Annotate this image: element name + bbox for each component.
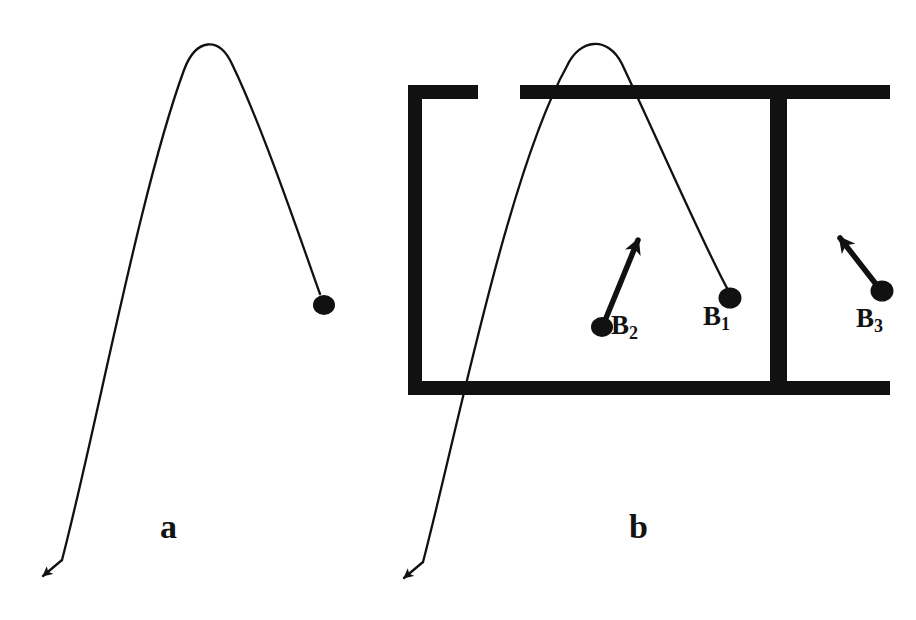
ball-B3 [871,281,894,302]
ball-B2 [591,317,613,337]
ball-label-B1-subscript: 1 [721,314,730,334]
apparatus-left-wall [408,85,422,395]
ball-B3-velocity-arrow [840,238,879,288]
panel-b-trajectory-group [404,44,727,578]
ball-label-B1: B1 [703,303,730,330]
ball-label-B1-base: B [703,301,721,331]
panel-a-descent-arrow [43,560,62,576]
figure-canvas: a b B2 B1 B3 [0,0,916,620]
panel-b-apparatus [408,85,890,395]
ball-label-B2-base: B [611,310,629,340]
ball-label-B3-base: B [856,303,874,333]
panel-label-b: b [629,510,648,544]
ball-label-B2: B2 [611,312,638,339]
ball-label-B2-subscript: 2 [629,323,638,343]
ball-label-B3-subscript: 3 [874,316,883,336]
figure-vector-graphics [0,0,916,620]
apparatus-partition-wall [770,85,787,395]
panel-a-trajectory-arc [62,44,320,560]
panel-b-trajectory-arc [423,44,727,562]
panel-a-group [43,44,335,576]
panel-b-descent-arrow [404,562,423,578]
panel-label-a: a [160,510,177,544]
panel-a-ball [313,295,335,315]
ball-label-B3: B3 [856,305,883,332]
apparatus-top-wall-right [520,85,890,99]
apparatus-bottom-wall [408,381,890,395]
